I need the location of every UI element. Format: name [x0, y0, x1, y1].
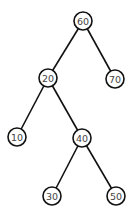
- node-label: 50: [110, 191, 122, 202]
- tree-node-10: 10: [8, 128, 26, 146]
- node-label: 40: [76, 133, 88, 144]
- tree-node-70: 70: [106, 70, 124, 88]
- edges: [17, 21, 116, 196]
- tree-node-30: 30: [43, 187, 61, 205]
- nodes: 60 20 70 10 40 30 50: [8, 12, 125, 205]
- tree-node-20: 20: [39, 69, 57, 87]
- edge-20-40: [48, 78, 82, 138]
- edge-60-20: [48, 21, 83, 78]
- edge-20-10: [17, 78, 48, 137]
- binary-tree-diagram: 60 20 70 10 40 30 50: [0, 0, 136, 218]
- tree-node-50: 50: [107, 187, 125, 205]
- tree-node-60: 60: [74, 12, 92, 30]
- node-label: 10: [11, 132, 23, 143]
- tree-node-40: 40: [73, 129, 91, 147]
- node-label: 70: [109, 74, 121, 85]
- node-label: 60: [77, 16, 89, 27]
- node-label: 30: [46, 191, 58, 202]
- edge-60-70: [83, 21, 115, 79]
- node-label: 20: [42, 73, 54, 84]
- edge-40-50: [82, 138, 116, 196]
